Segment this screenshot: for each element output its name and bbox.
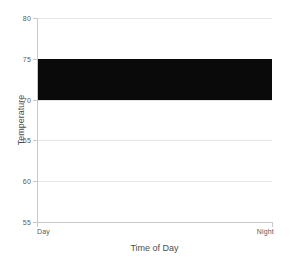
- gridline-80: [37, 18, 272, 19]
- y-tick-mark-60: [33, 181, 37, 182]
- gridline-65: [37, 140, 272, 141]
- y-tick-mark-65: [33, 140, 37, 141]
- y-tick-mark-75: [33, 59, 37, 60]
- y-tick-mark-80: [33, 18, 37, 19]
- chart-figure: 80 75 70 65 60 55 Day Night Time of Day …: [0, 0, 294, 272]
- x-tick-mark-night: [272, 223, 273, 227]
- x-axis-spine: [37, 222, 273, 223]
- x-axis-title: Time of Day: [37, 243, 272, 254]
- gridline-70: [37, 100, 272, 101]
- temperature-range-band: [37, 59, 272, 100]
- gridline-60: [37, 181, 272, 182]
- x-tick-mark-day: [37, 223, 38, 227]
- plot-area: [37, 18, 272, 222]
- y-tick-mark-70: [33, 100, 37, 101]
- x-tick-label-night: Night: [252, 228, 274, 235]
- y-axis-title: Temperature: [14, 18, 28, 222]
- x-tick-label-day: Day: [37, 228, 50, 235]
- y-axis-spine: [37, 18, 38, 223]
